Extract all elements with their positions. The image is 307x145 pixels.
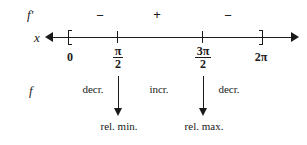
extremum-label-rel-max: rel. max.	[175, 121, 233, 132]
tick-mark-3pi-over-2	[202, 31, 203, 43]
fraction-pi-over-2: π 2	[113, 45, 124, 70]
extremum-label-rel-min: rel. min.	[90, 121, 148, 132]
sign-plus: +	[149, 8, 165, 21]
fraction-denominator: 2	[195, 58, 212, 70]
behaviour-increasing: incr.	[143, 84, 175, 95]
tick-mark-pi-over-2	[117, 31, 118, 43]
derivative-row-label: f′	[27, 8, 33, 21]
tick-label-0: 0	[60, 51, 80, 63]
arrow-stem-rel-min	[118, 76, 119, 109]
function-row-label: f	[29, 84, 33, 97]
sign-minus-first: −	[92, 9, 108, 22]
axis-row-label: x	[34, 31, 40, 44]
sign-minus-second: −	[220, 9, 236, 22]
tick-label-3pi-over-2: 3π 2	[190, 45, 216, 70]
fraction-3pi-over-2: 3π 2	[195, 45, 212, 70]
left-arrowhead-icon	[45, 32, 53, 42]
sign-chart-diagram: f′ − + − x 0 π 2 3π 2 2π f decr. incr. d…	[0, 0, 307, 145]
tick-mark-2pi	[259, 30, 263, 45]
number-line	[50, 37, 292, 38]
behaviour-decreasing-second: decr.	[212, 84, 246, 95]
fraction-numerator: 3π	[195, 45, 212, 58]
arrow-head-rel-max-icon	[199, 108, 207, 116]
tick-label-pi-over-2: π 2	[106, 45, 130, 70]
fraction-numerator: π	[113, 45, 124, 58]
behaviour-decreasing-first: decr.	[76, 84, 110, 95]
right-arrowhead-icon	[291, 32, 299, 42]
tick-label-2pi: 2π	[248, 51, 274, 63]
tick-mark-0	[68, 30, 72, 45]
fraction-denominator: 2	[113, 58, 124, 70]
arrow-stem-rel-max	[203, 76, 204, 109]
arrow-head-rel-min-icon	[114, 108, 122, 116]
